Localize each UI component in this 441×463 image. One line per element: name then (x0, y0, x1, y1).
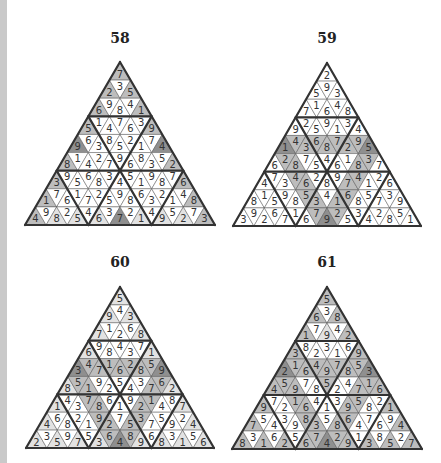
cell-digit: 3 (366, 438, 372, 449)
cell-digit: 8 (366, 402, 372, 413)
cell-digit: 1 (355, 432, 361, 443)
cell-digit: 1 (292, 396, 298, 407)
cell-digit: 4 (313, 396, 319, 407)
cell-digit: 6 (303, 438, 309, 449)
cell-digit: 7 (303, 378, 309, 389)
cell-digit: 3 (324, 342, 330, 353)
cell-digit: 2 (334, 432, 340, 443)
cell-digit: 5 (324, 378, 330, 389)
cell-digit: 7 (313, 324, 319, 335)
cell-digit: 5 (355, 396, 361, 407)
cell-digit: 8 (334, 420, 340, 431)
cell-digit: 5 (292, 432, 298, 443)
cell-digit: 4 (398, 420, 404, 431)
cell-digit: 2 (282, 438, 288, 449)
cell-digit: 2 (377, 396, 383, 407)
cell-digit: 7 (334, 360, 340, 371)
cell-digit: 3 (334, 396, 340, 407)
cell-digit: 8 (377, 432, 383, 443)
cell-digit: 3 (292, 348, 298, 359)
cell-digit: 7 (313, 432, 319, 443)
cell-digit: 6 (303, 366, 309, 377)
cell-digit: 8 (334, 312, 340, 323)
cell-digit: 4 (271, 420, 277, 431)
cell-digit: 9 (355, 348, 361, 359)
cell-digit: 9 (387, 414, 393, 425)
cell-digit: 5 (324, 294, 330, 305)
cell-digit: 8 (345, 366, 351, 377)
cell-digit: 3 (324, 306, 330, 317)
cell-digit: 7 (408, 438, 414, 449)
cell-digit: 6 (345, 414, 351, 425)
cell-digit: 4 (271, 384, 277, 395)
cell-digit: 7 (250, 420, 256, 431)
cell-digit: 5 (282, 378, 288, 389)
cell-digit: 8 (303, 342, 309, 353)
cell-digit: 1 (324, 402, 330, 413)
cell-digit: 1 (387, 402, 393, 413)
cell-digit: 9 (260, 402, 266, 413)
cell-digit: 4 (355, 420, 361, 431)
cell-digit: 9 (292, 384, 298, 395)
cell-digit: 4 (313, 360, 319, 371)
cell-digit: 4 (324, 438, 330, 449)
cell-digit: 8 (313, 384, 319, 395)
triangle-puzzle-grid: 5638179423823169216497853459785247169721… (0, 0, 441, 463)
cell-digit: 4 (345, 378, 351, 389)
cell-digit: 1 (366, 378, 372, 389)
cell-digit: 3 (250, 432, 256, 443)
cell-digit: 6 (345, 342, 351, 353)
cell-digit: 6 (271, 432, 277, 443)
cell-digit: 9 (324, 330, 330, 341)
cell-digit: 5 (355, 360, 361, 371)
cell-digit: 1 (334, 348, 340, 359)
cell-digit: 3 (366, 366, 372, 377)
cell-digit: 2 (282, 402, 288, 413)
cell-digit: 9 (345, 438, 351, 449)
cell-digit: 8 (239, 438, 245, 449)
cell-digit: 1 (292, 360, 298, 371)
cell-digit: 7 (355, 384, 361, 395)
cell-digit: 2 (313, 348, 319, 359)
cell-digit: 1 (303, 330, 309, 341)
cell-digit: 3 (313, 420, 319, 431)
cell-digit: 5 (260, 414, 266, 425)
cell-digit: 7 (366, 414, 372, 425)
cell-digit: 2 (398, 432, 404, 443)
cell-digit: 5 (324, 414, 330, 425)
cell-digit: 6 (377, 420, 383, 431)
cell-digit: 2 (282, 366, 288, 377)
cell-digit: 9 (292, 420, 298, 431)
cell-digit: 5 (387, 438, 393, 449)
cell-digit: 3 (282, 414, 288, 425)
cell-digit: 1 (260, 438, 266, 449)
cell-digit: 4 (334, 324, 340, 335)
cell-digit: 9 (324, 366, 330, 377)
cell-digit: 7 (271, 396, 277, 407)
cell-digit: 2 (334, 384, 340, 395)
cell-digit: 9 (345, 402, 351, 413)
cell-digit: 2 (345, 330, 351, 341)
cell-digit: 6 (313, 312, 319, 323)
cell-digit: 8 (303, 414, 309, 425)
cell-digit: 6 (377, 384, 383, 395)
cell-digit: 6 (303, 402, 309, 413)
